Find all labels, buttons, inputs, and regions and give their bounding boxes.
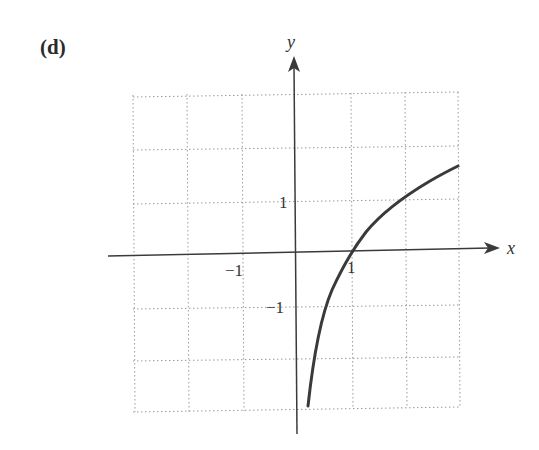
y-axis-label: y [285, 32, 295, 52]
y-tick-label-1: 1 [279, 193, 288, 212]
x-axis [108, 248, 490, 256]
x-tick-label-neg1: −1 [225, 261, 243, 280]
y-axis [294, 66, 297, 434]
x-axis-label: x [506, 238, 515, 258]
y-tick-label-neg1: −1 [266, 298, 284, 317]
chart: x y −1 1 1 −1 [0, 0, 539, 450]
function-curve [308, 166, 458, 406]
